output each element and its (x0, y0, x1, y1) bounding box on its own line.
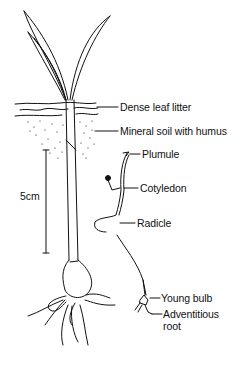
stem (66, 100, 78, 260)
label-mineral-soil: Mineral soil with humus (120, 126, 227, 137)
seedling-diagram (0, 0, 248, 378)
bulb (63, 260, 92, 298)
germinating-seed (95, 152, 129, 232)
label-cotyledon: Cotyledon (140, 183, 186, 194)
leaves (24, 11, 110, 100)
young-bulb-seedling (117, 235, 152, 314)
label-young-bulb: Young bulb (161, 293, 212, 304)
scale-bar-label: 5cm (20, 191, 40, 202)
label-leaf-litter: Dense leaf litter (120, 102, 191, 113)
leaf-litter-layer (15, 102, 98, 116)
label-plumule: Plumule (142, 149, 179, 160)
mineral-soil-dots (27, 120, 94, 158)
label-adventitious-root-1: Adventitious (163, 309, 219, 320)
scale-bar (43, 150, 49, 253)
label-radicle: Radicle (137, 218, 171, 229)
label-adventitious-root-2: root (163, 321, 181, 332)
leader-lines (95, 107, 162, 314)
roots (28, 294, 115, 345)
